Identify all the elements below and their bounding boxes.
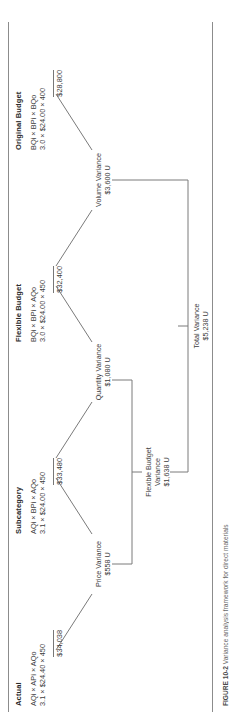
variance-volume: Volume Variance $3,600 U	[94, 130, 112, 230]
figure-page: Actual AQi × APi × AQo 3.1 × $24.40 × 45…	[0, 0, 238, 716]
variance-total-label: Total Variance	[192, 278, 201, 374]
variance-flexible-budget-amount: $1,638 U	[162, 424, 171, 520]
column-original-budget: Original Budget BQi × BPi × BQo 3.0 × $2…	[14, 70, 66, 150]
variance-quantity-label: Quantity Variance	[94, 322, 103, 422]
column-flexible-budget: Flexible Budget BQi × BPi × AQo 3.0 × $2…	[14, 266, 66, 342]
variance-quantity: Quantity Variance $1,080 U	[94, 322, 112, 422]
bracket-flexible-budget-variance	[112, 380, 132, 564]
column-flexible-budget-values: 3.0 × $24.00 × 450	[38, 266, 47, 342]
column-original-budget-formula: BQi × BPi × BQo	[29, 70, 38, 150]
variance-flexible-budget-label-2: Variance	[153, 424, 162, 520]
variance-total: Total Variance $5,238 U	[192, 278, 210, 374]
variance-flexible-budget: Flexible Budget Variance $1,638 U	[144, 424, 172, 520]
variance-volume-label: Volume Variance	[94, 130, 103, 230]
column-flexible-budget-total: $32,400	[53, 266, 64, 293]
variance-volume-amount: $3,600 U	[103, 130, 112, 230]
column-original-budget-total: $28,800	[53, 70, 64, 97]
column-actual: Actual AQi × APi × AQo 3.1 × $24.40 × 45…	[14, 630, 66, 706]
figure-caption: FIGURE 10-2 Variance analysis framework …	[222, 16, 229, 706]
variance-price: Price Variance $558 U	[94, 522, 112, 606]
column-actual-header: Actual	[14, 630, 23, 706]
column-flexible-budget-header: Flexible Budget	[14, 266, 23, 342]
link-flexible-to-volume	[56, 210, 92, 266]
variance-price-label: Price Variance	[94, 522, 103, 606]
column-actual-values: 3.1 × $24.40 × 450	[38, 630, 47, 706]
diagram-frame: Actual AQi × APi × AQo 3.1 × $24.40 × 45…	[0, 0, 238, 716]
variance-quantity-amount: $1,080 U	[103, 322, 112, 422]
variance-flexible-budget-label-1: Flexible Budget	[144, 424, 153, 520]
column-actual-formula: AQi × APi × AQo	[29, 630, 38, 706]
column-subcategory-total: $33,480	[53, 458, 64, 485]
column-flexible-budget-formula: BQi × BPi × AQo	[29, 266, 38, 342]
column-subcategory-values: 3.1 × $24.00 × 450	[38, 458, 47, 534]
link-subcategory-to-quantity	[56, 402, 92, 458]
column-original-budget-values: 3.0 × $24.00 × 400	[38, 70, 47, 150]
column-subcategory-header: Subcategory	[14, 458, 23, 534]
figure-caption-text: Variance analysis framework for direct m…	[222, 524, 229, 664]
column-original-budget-header: Original Budget	[14, 70, 23, 150]
column-subcategory: Subcategory AQi × BPi × AQo 3.1 × $24.00…	[14, 458, 66, 534]
column-subcategory-formula: AQi × BPi × AQo	[29, 458, 38, 534]
figure-caption-label: FIGURE 10-2	[222, 666, 229, 706]
variance-price-amount: $558 U	[103, 522, 112, 606]
variance-total-amount: $5,238 U	[201, 278, 210, 374]
rotated-canvas: Actual AQi × APi × AQo 3.1 × $24.40 × 45…	[0, 0, 238, 716]
column-actual-total: $34,038	[53, 630, 64, 657]
